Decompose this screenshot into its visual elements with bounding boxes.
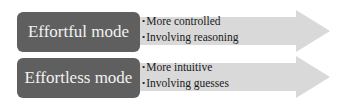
effortless-traits: More intuitive Involving guesses bbox=[142, 60, 229, 92]
trait-item: More intuitive bbox=[142, 60, 229, 76]
effortful-traits: More controlled Involving reasoning bbox=[142, 14, 238, 46]
effortful-row: Effortful mode More controlled Involving… bbox=[0, 8, 342, 54]
effortless-mode-box: Effortless mode bbox=[17, 58, 140, 98]
trait-item: Involving guesses bbox=[142, 76, 229, 92]
trait-item: More controlled bbox=[142, 14, 238, 30]
trait-item: Involving reasoning bbox=[142, 30, 238, 46]
effortful-mode-box: Effortful mode bbox=[17, 12, 140, 52]
effortless-row: Effortless mode More intuitive Involving… bbox=[0, 54, 342, 100]
